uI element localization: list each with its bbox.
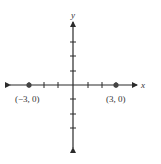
x-axis-label: x — [140, 80, 145, 90]
point-neg3-0 — [26, 82, 31, 87]
coordinate-plane: y x (−3, 0) (3, 0) — [0, 0, 161, 164]
point-label-right: (3, 0) — [106, 94, 126, 104]
y-axis-label: y — [70, 10, 75, 20]
point-label-left: (−3, 0) — [15, 94, 40, 104]
point-3-0 — [113, 82, 118, 87]
